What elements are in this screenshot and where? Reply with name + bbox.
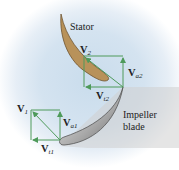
vt2-label: Vt2 — [96, 91, 109, 103]
stator-label: Stator — [70, 22, 94, 32]
v1-label: V1 — [17, 104, 28, 116]
va2-label: Va2 — [128, 68, 143, 80]
inlet-velocity-triangle — [31, 110, 60, 140]
impeller-label-line2: blade — [123, 122, 145, 132]
impeller-label-line1: Impeller — [123, 110, 157, 120]
v2-label: V2 — [80, 45, 91, 57]
va1-label: Va1 — [63, 118, 78, 130]
vt1-label: Vt1 — [41, 144, 54, 156]
